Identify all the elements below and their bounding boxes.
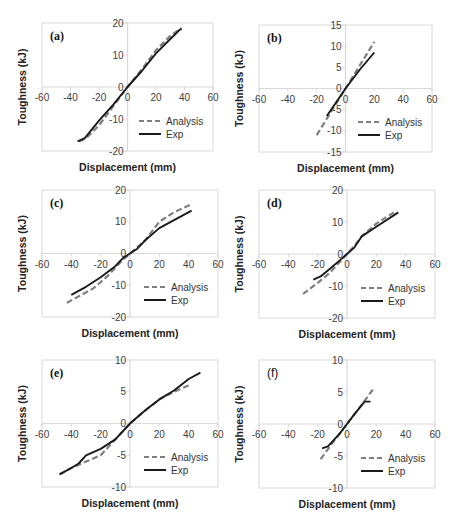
y-axis-title: Toughness (kJ) <box>16 49 28 126</box>
legend-analysis: Analysis <box>166 116 203 127</box>
y-tick-label: 10 <box>330 41 342 52</box>
y-tick-label: 20 <box>115 185 127 196</box>
x-axis-title: Displacement (mm) <box>82 327 179 339</box>
panel-label: (f) <box>267 366 278 380</box>
legend-exp: Exp <box>171 295 189 306</box>
chart-a: -60-40-200204060-20-1001020(a)AnalysisEx… <box>0 0 229 180</box>
y-tick-label: 20 <box>112 18 124 29</box>
x-tick-label: -20 <box>92 92 107 103</box>
x-axis-title: Displacement (mm) <box>82 497 179 509</box>
y-tick-label: 0 <box>337 419 343 430</box>
panel-label: (d) <box>267 196 282 210</box>
y-tick-label: -10 <box>329 483 344 494</box>
legend-analysis: Analysis <box>171 452 208 463</box>
panel-label: (b) <box>267 31 282 45</box>
x-tick-label: 0 <box>344 259 350 270</box>
chart-f: -60-40-200204060-10-50510(f)AnalysisExpD… <box>229 350 458 526</box>
y-tick-label: 10 <box>115 355 127 366</box>
x-tick-label: 60 <box>212 259 224 270</box>
x-tick-label: -20 <box>310 259 325 270</box>
x-tick-label: 20 <box>154 429 166 440</box>
x-tick-label: 60 <box>429 429 441 440</box>
chart-b: -60-40-200204060-15-10-5051015(b)Analysi… <box>229 0 458 180</box>
y-tick-label: -10 <box>109 114 124 125</box>
legend-analysis: Analysis <box>385 117 422 128</box>
chart-c: -60-40-200204060-20-1001020(c)AnalysisEx… <box>0 180 229 350</box>
legend-exp: Exp <box>166 129 184 140</box>
x-tick-label: 20 <box>150 92 162 103</box>
y-axis-title: Toughness (kJ) <box>233 50 245 127</box>
x-tick-label: -60 <box>252 94 267 105</box>
x-tick-label: -40 <box>63 92 78 103</box>
y-tick-label: 10 <box>332 355 344 366</box>
panel-b: -60-40-200204060-15-10-5051015(b)Analysi… <box>229 0 458 180</box>
y-tick-label: -20 <box>112 312 127 323</box>
chart-d: -60-40-200204060-20-1001020(d)AnalysisEx… <box>229 180 458 350</box>
x-tick-label: -60 <box>252 259 267 270</box>
x-tick-label: -40 <box>64 259 79 270</box>
y-axis-title: Toughness (kJ) <box>16 215 28 292</box>
y-tick-label: 10 <box>332 217 344 228</box>
x-tick-label: -40 <box>64 429 79 440</box>
x-tick-label: 0 <box>125 92 131 103</box>
x-tick-label: 0 <box>344 429 350 440</box>
x-tick-label: 0 <box>127 259 133 270</box>
x-tick-label: 60 <box>429 259 441 270</box>
x-tick-label: 40 <box>179 92 191 103</box>
x-tick-label: 40 <box>183 259 195 270</box>
y-tick-label: -5 <box>117 450 126 461</box>
y-tick-label: -10 <box>112 280 127 291</box>
x-tick-label: -40 <box>281 429 296 440</box>
chart-e: -60-40-200204060-10-50510(e)AnalysisExpD… <box>0 350 229 526</box>
x-tick-label: -60 <box>35 259 50 270</box>
y-axis-title: Toughness (kJ) <box>233 216 245 293</box>
legend-exp: Exp <box>388 466 406 477</box>
x-tick-label: -20 <box>93 259 108 270</box>
y-tick-label: 15 <box>330 20 342 31</box>
x-tick-label: 0 <box>127 429 133 440</box>
x-tick-label: 60 <box>426 94 438 105</box>
y-axis-title: Toughness (kJ) <box>16 385 28 462</box>
y-tick-label: 5 <box>120 386 126 397</box>
panel-e: -60-40-200204060-10-50510(e)AnalysisExpD… <box>0 350 229 526</box>
y-tick-label: -20 <box>109 146 124 157</box>
x-axis-title: Displacement (mm) <box>79 161 176 173</box>
x-tick-label: 0 <box>343 94 349 105</box>
x-axis-title: Displacement (mm) <box>299 498 396 510</box>
y-tick-label: 10 <box>112 50 124 61</box>
y-tick-label: -10 <box>327 125 342 136</box>
panel-f: -60-40-200204060-10-50510(f)AnalysisExpD… <box>229 350 458 526</box>
y-tick-label: 0 <box>118 82 124 93</box>
legend-exp: Exp <box>388 296 406 307</box>
x-tick-label: 40 <box>183 429 195 440</box>
panel-a: -60-40-200204060-20-1001020(a)AnalysisEx… <box>0 0 229 180</box>
y-tick-label: 20 <box>332 185 344 196</box>
y-tick-label: 5 <box>336 62 342 73</box>
x-tick-label: -20 <box>309 94 324 105</box>
x-tick-label: 60 <box>207 92 219 103</box>
legend-analysis: Analysis <box>388 453 425 464</box>
y-tick-label: -20 <box>329 313 344 324</box>
panel-label: (e) <box>50 366 63 380</box>
x-tick-label: -60 <box>35 92 50 103</box>
x-tick-label: 40 <box>398 94 410 105</box>
x-axis-title: Displacement (mm) <box>297 162 394 174</box>
y-tick-label: -10 <box>112 482 127 493</box>
x-tick-label: -40 <box>281 259 296 270</box>
x-axis-title: Displacement (mm) <box>299 328 396 340</box>
x-tick-label: -20 <box>310 429 325 440</box>
y-tick-label: -5 <box>334 451 343 462</box>
x-tick-label: -40 <box>281 94 296 105</box>
x-tick-label: -60 <box>252 429 267 440</box>
legend-analysis: Analysis <box>171 282 208 293</box>
panel-d: -60-40-200204060-20-1001020(d)AnalysisEx… <box>229 180 458 350</box>
legend-exp: Exp <box>171 465 189 476</box>
y-axis-title: Toughness (kJ) <box>233 386 245 463</box>
x-tick-label: 20 <box>371 429 383 440</box>
x-tick-label: -20 <box>93 429 108 440</box>
y-tick-label: 10 <box>115 216 127 227</box>
x-tick-label: 20 <box>371 259 383 270</box>
legend-exp: Exp <box>385 130 403 141</box>
x-tick-label: 20 <box>369 94 381 105</box>
panel-label: (c) <box>50 196 63 210</box>
